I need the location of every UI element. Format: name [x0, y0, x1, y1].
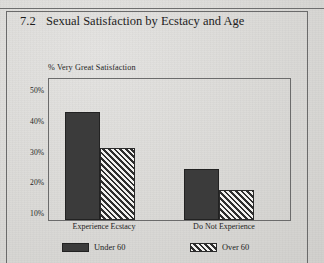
bar-over60-do-not-experience	[219, 190, 254, 220]
legend-swatch-hatch-icon	[190, 243, 217, 252]
legend-entry-under-60: Under 60	[62, 243, 125, 252]
y-tick-10: 10%	[20, 209, 44, 218]
bar-under60-experience-ecstacy	[65, 112, 100, 220]
legend-entry-over-60: Over 60	[190, 243, 249, 252]
x-label-experience-ecstacy: Experience Ecstacy	[59, 222, 149, 231]
x-label-do-not-experience: Do Not Experience	[179, 222, 269, 231]
bar-under60-do-not-experience	[184, 169, 219, 220]
y-tick-50: 50%	[20, 86, 44, 95]
caption-number: 7.2	[20, 14, 46, 30]
chart-legend: Under 60 Over 60	[48, 243, 298, 257]
caption-title: Sexual Satisfaction by Ecstacy and Age	[46, 14, 244, 28]
y-tick-20: 20%	[20, 178, 44, 187]
legend-label-over-60: Over 60	[222, 243, 249, 252]
legend-swatch-solid-icon	[62, 243, 89, 252]
figure-page: 7.2Sexual Satisfaction by Ecstacy and Ag…	[0, 0, 324, 263]
y-tick-40: 40%	[20, 117, 44, 126]
legend-label-under-60: Under 60	[94, 243, 125, 252]
x-axis-category-labels: Experience Ecstacy Do Not Experience	[48, 222, 291, 236]
y-tick-30: 30%	[20, 148, 44, 157]
figure-caption: 7.2Sexual Satisfaction by Ecstacy and Ag…	[20, 14, 292, 30]
y-axis-tick-labels: 50% 40% 30% 20% 10%	[18, 78, 44, 221]
bar-over60-experience-ecstacy	[100, 148, 135, 220]
page-top-rule	[0, 8, 324, 9]
y-axis-title: % Very Great Satisfaction	[48, 63, 136, 72]
bars-layer	[49, 79, 290, 220]
